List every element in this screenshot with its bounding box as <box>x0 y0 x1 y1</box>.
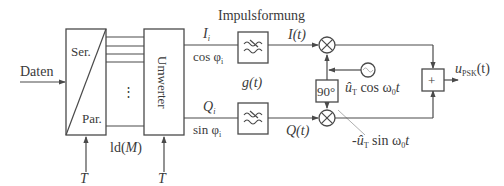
q-mixer <box>319 110 335 126</box>
bus-width-label: ld(M) <box>110 140 142 156</box>
parallel-bus: ⋮ ld(M) <box>106 37 144 156</box>
data-input: Daten <box>20 64 65 82</box>
pulse-shaping-title: Impulsformung <box>218 8 305 23</box>
q-symbol: Qi <box>203 99 215 116</box>
i-filter-output: I(t) <box>287 27 306 43</box>
i-pulse-filter <box>238 32 268 63</box>
impulse-response-label: g(t) <box>242 75 263 91</box>
par-label: Par. <box>82 111 102 126</box>
summer-symbol: + <box>428 73 435 88</box>
serpar-clock-label: T <box>80 171 89 186</box>
mapper-clock-label: T <box>158 171 167 186</box>
ser-label: Ser. <box>71 44 91 59</box>
carrier-sin-leader <box>338 110 365 135</box>
i-branch: Ii cos φi I(t) <box>184 26 318 66</box>
data-input-label: Daten <box>20 64 53 79</box>
output-label: uPSK(t) <box>455 61 490 78</box>
q-filter-output: Q(t) <box>286 123 310 139</box>
carrier-sin-label: -ûT sin ω0t <box>352 133 410 150</box>
q-value: sin φi <box>193 122 222 139</box>
q-branch: Qi sin φi Q(t) <box>184 99 318 139</box>
i-value: cos φi <box>193 49 224 66</box>
carrier-cos-label: ûT cos ω0t <box>345 80 401 97</box>
bus-dots: ⋮ <box>122 84 135 99</box>
psk-modulator-diagram: Daten Ser. Par. T ⋮ ld(M) Umwerter T Ii … <box>0 0 504 186</box>
i-symbol: Ii <box>202 26 210 43</box>
serial-parallel-converter: Ser. Par. T <box>66 29 106 186</box>
phase-shifter-label: 90° <box>317 84 335 99</box>
mapper-label: Umwerter <box>155 56 170 109</box>
q-pulse-filter <box>238 103 268 134</box>
i-mixer <box>319 37 335 53</box>
mapper: Umwerter T <box>144 29 184 186</box>
